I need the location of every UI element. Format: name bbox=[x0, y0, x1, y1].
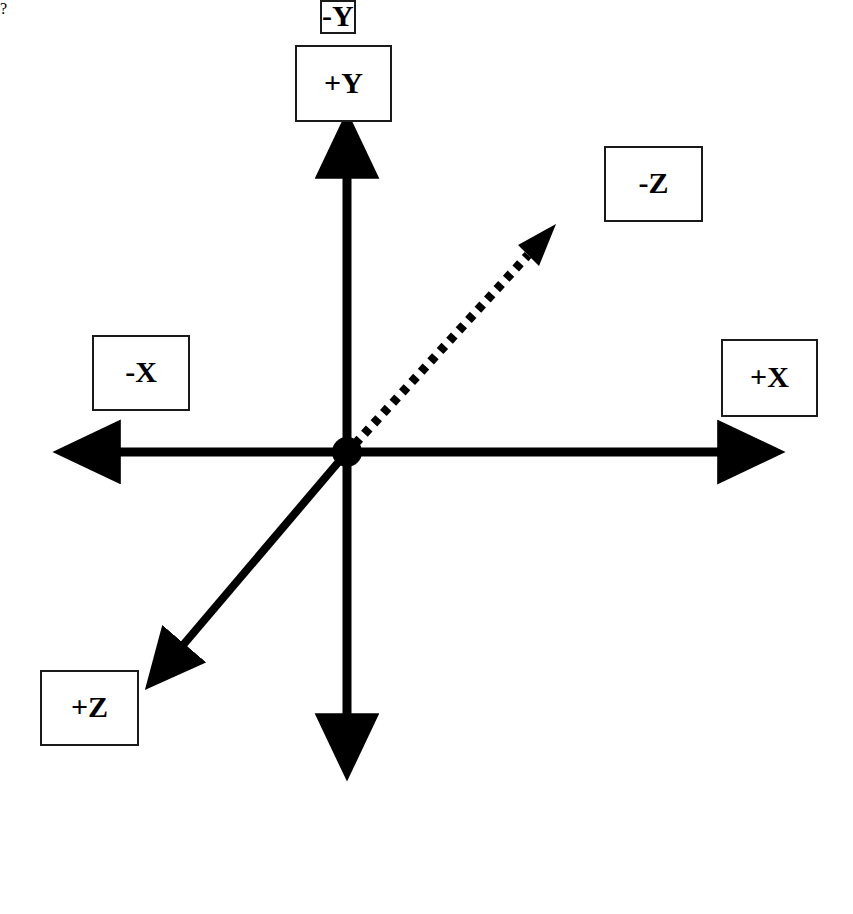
axis-minus-z-arrow bbox=[355, 224, 556, 444]
label-text-plus-y: +Y bbox=[324, 68, 363, 98]
axis-plus-z-arrow bbox=[178, 452, 347, 651]
axes-vector-graphic bbox=[0, 0, 853, 914]
label-box-plus-y: +Y bbox=[295, 45, 392, 122]
label-text-plus-x: +X bbox=[750, 362, 789, 392]
label-text-minus-y: -Y bbox=[322, 1, 354, 31]
origin-point bbox=[332, 437, 362, 467]
label-box-plus-x: +X bbox=[721, 339, 818, 417]
label-text-plus-z: +Z bbox=[71, 692, 108, 722]
label-box-minus-x: -X bbox=[92, 335, 190, 411]
label-box-minus-y: -Y bbox=[320, 0, 356, 34]
label-text-minus-z: -Z bbox=[639, 168, 669, 198]
label-box-plus-z: +Z bbox=[40, 670, 139, 746]
label-text-minus-x: -X bbox=[125, 357, 157, 387]
diagram-canvas: +Y -Z -X +X +Z -Y ? bbox=[0, 0, 853, 914]
label-box-minus-z: -Z bbox=[604, 146, 703, 222]
